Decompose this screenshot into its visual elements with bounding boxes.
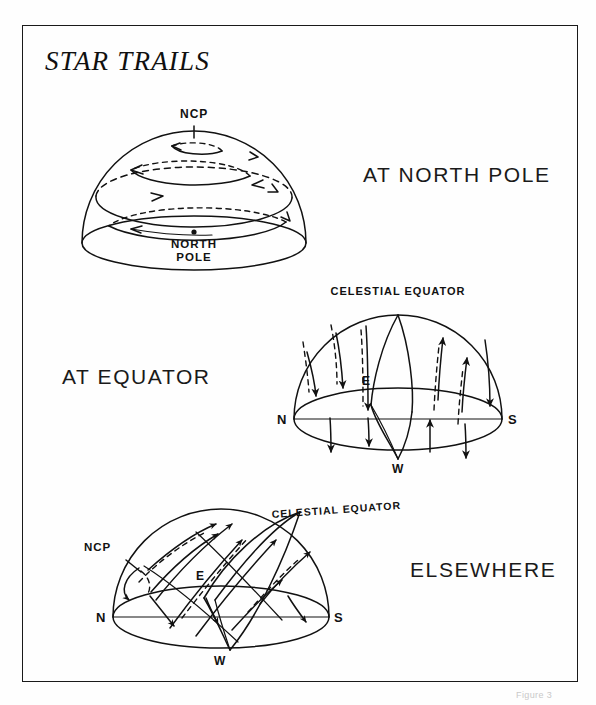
figure-page: STAR TRAILS AT NORTH POLE AT EQUATOR ELS…	[0, 0, 596, 705]
panel-caption-elsewhere: ELSEWHERE	[410, 558, 556, 582]
figure-caption: Figure 3	[516, 690, 552, 700]
figure-border	[22, 25, 578, 682]
panel-caption-equator: AT EQUATOR	[62, 365, 211, 389]
figure-title: STAR TRAILS	[45, 46, 210, 77]
panel-caption-north-pole: AT NORTH POLE	[363, 163, 551, 187]
